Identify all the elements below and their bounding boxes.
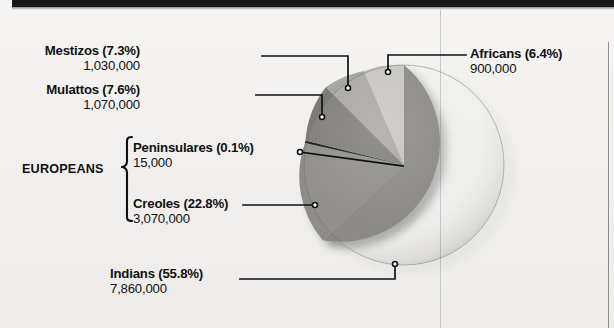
figure-page: Mestizos (7.3%) 1,030,000 Mulattos (7.6%… bbox=[0, 0, 614, 328]
callout-count-mulattos: 1,070,000 bbox=[46, 98, 140, 112]
leader-line-indians bbox=[240, 264, 395, 279]
callout-title-mestizos: Mestizos (7.3%) bbox=[45, 44, 140, 58]
callout-title-mulattos: Mulattos (7.6%) bbox=[46, 83, 140, 97]
leader-dot-mulattos bbox=[320, 115, 325, 120]
callout-label-creoles: Creoles (22.8%) 3,070,000 bbox=[133, 197, 228, 225]
callout-label-mulattos: Mulattos (7.6%) 1,070,000 bbox=[46, 83, 140, 111]
callout-count-mestizos: 1,030,000 bbox=[45, 59, 140, 73]
callout-label-mestizos: Mestizos (7.3%) 1,030,000 bbox=[45, 44, 140, 72]
callout-count-peninsulares: 15,000 bbox=[133, 156, 254, 170]
callout-label-peninsulares: Peninsulares (0.1%) 15,000 bbox=[133, 141, 254, 169]
callout-count-creoles: 3,070,000 bbox=[133, 212, 228, 226]
callout-label-africans: Africans (6.4%) 900,000 bbox=[470, 47, 562, 75]
group-label-europeans: EUROPEANS bbox=[22, 162, 104, 176]
pie-shading-overlay bbox=[304, 65, 504, 265]
callout-title-creoles: Creoles (22.8%) bbox=[133, 197, 228, 211]
leader-dot-mestizos bbox=[346, 86, 351, 91]
leader-dot-creoles bbox=[313, 203, 318, 208]
callout-title-indians: Indians (55.8%) bbox=[110, 267, 203, 281]
pie-body bbox=[299, 65, 504, 265]
europeans-brace bbox=[121, 137, 132, 221]
leader-dot-africans bbox=[386, 70, 391, 75]
leader-dot-peninsulares bbox=[298, 150, 303, 155]
leader-dot-indians bbox=[393, 262, 398, 267]
callout-count-indians: 7,860,000 bbox=[110, 282, 203, 296]
callout-title-peninsulares: Peninsulares (0.1%) bbox=[133, 141, 254, 155]
callout-title-africans: Africans (6.4%) bbox=[470, 47, 562, 61]
callout-label-indians: Indians (55.8%) 7,860,000 bbox=[110, 267, 203, 295]
callout-count-africans: 900,000 bbox=[470, 62, 562, 76]
